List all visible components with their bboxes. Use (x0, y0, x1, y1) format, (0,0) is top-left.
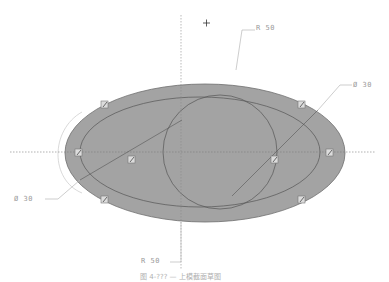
dimension-left-d30[interactable]: Ø 30 (14, 195, 33, 203)
sketch-canvas[interactable] (0, 0, 389, 282)
leader-right-d30 (318, 85, 352, 110)
leader-bottom-r50 (170, 222, 181, 262)
dimension-bottom-r50[interactable]: R 50 (141, 257, 160, 265)
crosshair-cursor-icon (203, 20, 210, 27)
leader-top-r50 (236, 30, 255, 70)
figure-caption: 图 4-??? — 上模截面草图 (140, 271, 221, 281)
dimension-right-d30[interactable]: Ø 30 (353, 81, 372, 89)
dimension-top-r50[interactable]: R 50 (256, 24, 275, 32)
